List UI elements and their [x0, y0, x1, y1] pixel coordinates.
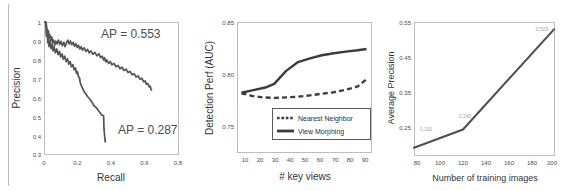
- average-precision-svg: 0.55 0.45 0.35 0.25 80 100 120 140 160 1…: [382, 0, 576, 190]
- x-axis-title: Number of training images: [432, 173, 538, 183]
- y-tick: 0.45: [399, 55, 411, 61]
- y-tick: 0.8: [33, 58, 42, 64]
- chart-average-precision: 0.55 0.45 0.35 0.25 80 100 120 140 160 1…: [382, 0, 576, 190]
- point-label: 0.191: [420, 126, 433, 132]
- y-tick: 0.55: [399, 20, 411, 26]
- chart-detection-perf: 0.85 0.80 0.75 10 20 30 40 50 60 70 80 9…: [192, 0, 382, 190]
- y-tick: 0.85: [222, 20, 234, 26]
- x-tick: 20: [257, 157, 264, 163]
- x-tick: 0.8: [174, 160, 183, 166]
- x-tick: 100: [435, 160, 446, 166]
- x-tick: 180: [527, 160, 538, 166]
- x-tick: 30: [272, 157, 279, 163]
- y-axis-title: Precision: [11, 67, 22, 108]
- x-tick: 0.4: [107, 160, 116, 166]
- detection-perf-svg: 0.85 0.80 0.75 10 20 30 40 50 60 70 80 9…: [192, 0, 382, 190]
- legend: Nearest Neighbor View Morphing: [273, 109, 371, 140]
- x-axis-title: # key views: [279, 171, 331, 182]
- y-tick: 0.80: [222, 72, 234, 78]
- figure-panel-row: 1 0.9 0.8 0.7 0.6 0.5 0.4 0.3 0 0.2 0.4 …: [0, 0, 576, 190]
- x-tick: 80: [347, 157, 354, 163]
- annotation-ap-high: AP = 0.553: [101, 27, 161, 41]
- x-tick: 50: [302, 157, 309, 163]
- y-axis-title: Detection Perf (AUC): [204, 41, 215, 135]
- x-tick: 160: [504, 160, 515, 166]
- y-tick: 0.75: [222, 124, 234, 130]
- x-tick: 120: [458, 160, 469, 166]
- y-tick: 0.25: [399, 125, 411, 131]
- chart-precision-recall: 1 0.9 0.8 0.7 0.6 0.5 0.4 0.3 0 0.2 0.4 …: [0, 0, 192, 190]
- precision-recall-svg: 1 0.9 0.8 0.7 0.6 0.5 0.4 0.3 0 0.2 0.4 …: [0, 0, 192, 190]
- series-line-view-morphing: [241, 49, 366, 93]
- series-line-average-precision: [414, 29, 554, 147]
- x-tick: 80: [414, 160, 421, 166]
- y-tick: 0.6: [33, 96, 42, 102]
- legend-label-view-morphing: View Morphing: [298, 128, 344, 136]
- x-tick: 70: [332, 157, 339, 163]
- x-tick: 90: [362, 157, 369, 163]
- legend-box: [273, 109, 371, 140]
- y-tick: 0.4: [33, 134, 42, 140]
- point-label: 0.243: [459, 113, 472, 119]
- x-tick: 60: [317, 157, 324, 163]
- x-tick: 0: [42, 160, 46, 166]
- x-tick: 40: [287, 157, 294, 163]
- legend-label-nearest-neighbor: Nearest Neighbor: [298, 115, 354, 123]
- x-axis-title: Recall: [97, 172, 125, 183]
- y-tick: 1: [38, 20, 42, 26]
- y-tick: 0.35: [399, 90, 411, 96]
- x-tick: 0.2: [73, 160, 82, 166]
- plot-frame: [415, 23, 555, 156]
- y-tick: 0.9: [33, 39, 42, 45]
- x-tick: 200: [547, 160, 558, 166]
- y-tick: 0.7: [33, 77, 42, 83]
- x-tick: 140: [481, 160, 492, 166]
- y-axis-title: Average Precision: [386, 52, 396, 125]
- annotation-ap-low: AP = 0.287: [118, 123, 178, 137]
- x-tick: 0.6: [140, 160, 149, 166]
- x-tick: 10: [242, 157, 249, 163]
- point-label: 0.529: [536, 26, 549, 32]
- y-tick: 0.5: [33, 115, 42, 121]
- y-tick: 0.3: [33, 152, 42, 158]
